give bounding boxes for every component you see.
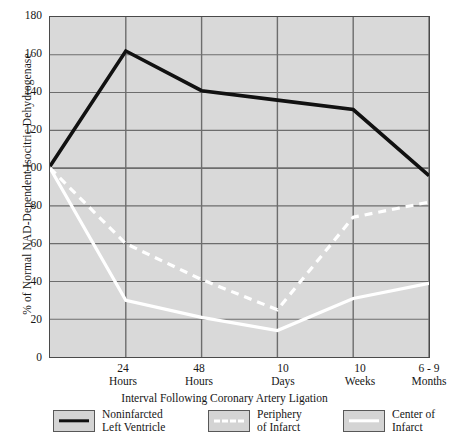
x-tick-line2: Hours <box>161 375 237 388</box>
legend-item-center-of-infarct[interactable]: Center of Infarct <box>343 408 435 434</box>
legend-label-line2: of Infarct <box>257 421 302 434</box>
figure: % of Normal NAD-Dependent Isocitric Dehy… <box>0 0 449 438</box>
x-tick-line2: Months <box>391 375 449 388</box>
legend-label-line2: Left Ventricle <box>102 421 165 434</box>
legend-label: Periphery of Infarct <box>257 408 302 434</box>
legend-item-periphery-of-infarct[interactable]: Periphery of Infarct <box>208 408 302 434</box>
y-tick-label: 140 <box>0 86 42 98</box>
legend-label-line1: Center of <box>392 408 435 421</box>
x-axis-title: Interval Following Coronary Artery Ligat… <box>0 392 449 404</box>
y-tick-label: 160 <box>0 48 42 60</box>
y-tick-label: 100 <box>0 162 42 174</box>
x-tick-line2: Hours <box>85 375 161 388</box>
x-tick-label-48-hours: 48 Hours <box>161 362 237 388</box>
legend-swatch-solid-white-icon <box>343 410 385 432</box>
y-tick-label: 40 <box>0 276 42 288</box>
x-tick-label-6-9-months: 6 - 9 Months <box>391 362 449 388</box>
legend: Noninfarcted Left Ventricle Periphery of… <box>0 404 449 438</box>
x-tick-line2: Weeks <box>322 375 398 388</box>
y-tick-label: 60 <box>0 238 42 250</box>
legend-label-line2: Infarct <box>392 421 435 434</box>
x-tick-line2: Days <box>245 375 321 388</box>
legend-swatch-solid-black-icon <box>53 410 95 432</box>
series-line-0 <box>50 51 429 176</box>
x-tick-line1: 10 <box>245 362 321 375</box>
x-tick-label-10-weeks: 10 Weeks <box>322 362 398 388</box>
legend-label-line1: Noninfarcted <box>102 408 165 421</box>
y-tick-label: 0 <box>0 352 42 364</box>
chart-canvas <box>50 17 429 357</box>
x-tick-label-10-days: 10 Days <box>245 362 321 388</box>
x-tick-line1: 24 <box>85 362 161 375</box>
x-tick-line1: 10 <box>322 362 398 375</box>
plot-area <box>49 16 430 358</box>
legend-label-line1: Periphery <box>257 408 302 421</box>
gridlines <box>50 17 429 357</box>
legend-item-noninfarcted-left-ventricle[interactable]: Noninfarcted Left Ventricle <box>53 408 165 434</box>
series-line-1 <box>50 168 429 310</box>
legend-label: Noninfarcted Left Ventricle <box>102 408 165 434</box>
x-tick-line1: 6 - 9 <box>391 362 449 375</box>
x-tick-line1: 48 <box>161 362 237 375</box>
legend-swatch-dashed-white-icon <box>208 410 250 432</box>
series-line-2 <box>50 168 429 330</box>
x-tick-label-24-hours: 24 Hours <box>85 362 161 388</box>
y-tick-label: 80 <box>0 200 42 212</box>
y-tick-label: 120 <box>0 124 42 136</box>
legend-label: Center of Infarct <box>392 408 435 434</box>
y-tick-label: 180 <box>0 10 42 22</box>
y-tick-label: 20 <box>0 314 42 326</box>
